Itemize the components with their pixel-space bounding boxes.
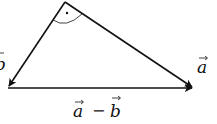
vector-a-arrow: [65, 2, 192, 87]
label-b: b: [0, 53, 6, 74]
right-angle-arc: [53, 14, 82, 23]
label-a-minus-b: a − b: [73, 96, 121, 121]
label-a: a: [197, 56, 208, 77]
right-angle-dot: [66, 12, 68, 14]
svg-text:−: −: [92, 101, 105, 120]
svg-text:b: b: [0, 54, 6, 74]
vector-b-arrow: [9, 2, 65, 86]
vector-triangle-diagram: b a a − b: [0, 0, 217, 124]
svg-text:b: b: [110, 101, 121, 121]
